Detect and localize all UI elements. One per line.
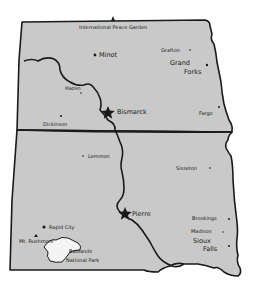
landmark-label: Mt. Rushmore	[19, 238, 54, 244]
city-label: Madison	[191, 228, 212, 234]
city-dot-icon	[94, 54, 97, 57]
city-dot-icon	[218, 106, 220, 108]
city-label: Minot	[99, 51, 118, 59]
city-label: Lemmon	[88, 153, 110, 159]
city-dot-icon	[82, 155, 84, 157]
city-label: Rapid City	[49, 224, 75, 231]
city-label: Dickinson	[43, 121, 67, 127]
city-dot-icon	[209, 167, 211, 169]
peace-garden-label: International Peace Garden	[79, 24, 147, 30]
city-dot-icon	[228, 245, 230, 247]
city-label: Bismarck	[117, 108, 147, 116]
city-label: Sisseton	[176, 165, 197, 171]
city-label: Grafton	[161, 47, 180, 53]
city-label: Brookings	[192, 215, 217, 222]
dakotas-map: International Peace Garden Minot Grafton…	[0, 0, 260, 299]
city-dot-icon	[60, 115, 62, 117]
city-dot-icon	[222, 231, 223, 232]
city-dot-icon	[206, 64, 208, 66]
city-dot-icon	[189, 49, 191, 51]
state-south-dakota[interactable]	[10, 130, 241, 276]
city-label-line1: Sioux	[193, 237, 211, 245]
landmark-icon	[111, 16, 115, 21]
city-label: Fargo	[199, 110, 213, 117]
city-label-line2: Forks	[184, 68, 202, 76]
city-dot-icon	[80, 92, 82, 94]
city-label: Hazen	[65, 85, 81, 91]
city-label-line2: Falls	[203, 245, 218, 253]
badlands-label-line2: National Park	[66, 257, 99, 263]
city-dot-icon	[228, 218, 230, 220]
city-label: Pierre	[132, 210, 151, 218]
city-label-line1: Grand	[170, 59, 190, 67]
city-dot-icon	[42, 225, 45, 228]
badlands-label-line1: Badlands	[69, 248, 92, 254]
